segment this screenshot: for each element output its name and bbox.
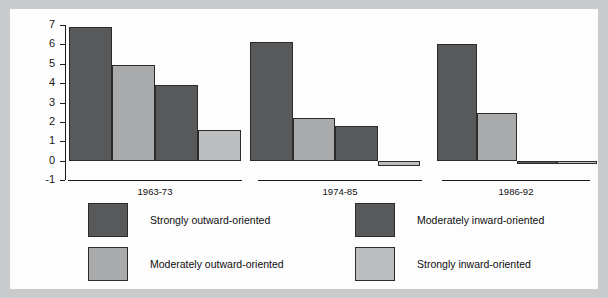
legend-item[interactable]: Moderately outward-oriented — [88, 247, 284, 281]
legend-swatch-icon — [88, 247, 128, 281]
legend-item[interactable]: Moderately inward-oriented — [355, 203, 544, 237]
group-baseline — [258, 180, 422, 181]
legend-label: Moderately outward-oriented — [150, 258, 284, 270]
y-tick-label: -1 — [31, 174, 55, 185]
plot-area: 76543210-1 1963-731974-851986-92 — [10, 9, 598, 195]
bar — [155, 85, 198, 161]
y-tick-label: 1 — [31, 135, 55, 146]
y-tick-mark — [60, 103, 65, 104]
legend-label: Strongly outward-oriented — [150, 214, 270, 226]
bar — [557, 161, 597, 164]
bar — [517, 161, 557, 164]
legend-item[interactable]: Strongly outward-oriented — [88, 203, 270, 237]
legend-item[interactable]: Strongly inward-oriented — [355, 247, 531, 281]
legend-swatch-icon — [355, 203, 395, 237]
bar — [335, 126, 378, 161]
y-tick-label: 6 — [31, 38, 55, 49]
legend-swatch-icon — [355, 247, 395, 281]
y-tick-label: 4 — [31, 77, 55, 88]
y-tick-label: 5 — [31, 58, 55, 69]
group-baseline — [442, 180, 590, 181]
y-axis-line — [65, 25, 66, 180]
y-tick-label: 0 — [31, 155, 55, 166]
y-tick-mark — [60, 122, 65, 123]
bar — [477, 113, 517, 160]
bar — [198, 130, 241, 161]
legend-label: Moderately inward-oriented — [417, 214, 544, 226]
y-tick-mark — [60, 180, 65, 181]
y-tick-label: 2 — [31, 116, 55, 127]
chart-legend: Strongly outward-orientedModerately outw… — [10, 195, 598, 289]
legend-swatch-icon — [88, 203, 128, 237]
chart-figure: 76543210-1 1963-731974-851986-92 Strongl… — [10, 9, 598, 289]
y-tick-mark — [60, 141, 65, 142]
y-tick-label: 3 — [31, 97, 55, 108]
bar — [378, 161, 421, 167]
bar — [437, 44, 477, 160]
bar — [293, 118, 336, 161]
legend-label: Strongly inward-oriented — [417, 258, 531, 270]
bar — [112, 65, 155, 161]
group-baseline — [68, 180, 242, 181]
y-tick-mark — [60, 64, 65, 65]
y-tick-mark — [60, 44, 65, 45]
y-tick-label: 7 — [31, 19, 55, 30]
bar — [250, 42, 293, 160]
y-tick-mark — [60, 25, 65, 26]
y-tick-mark — [60, 161, 65, 162]
y-tick-mark — [60, 83, 65, 84]
bar — [69, 27, 112, 161]
